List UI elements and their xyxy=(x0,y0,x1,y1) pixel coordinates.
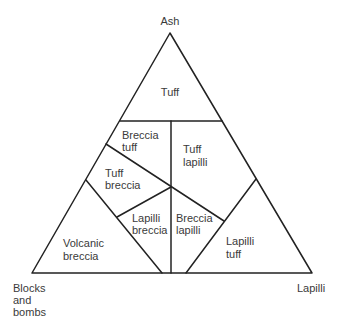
field-label-volcanic-breccia: Volcanic breccia xyxy=(63,237,107,262)
field-label-breccia-lapilli: Breccia lapilli xyxy=(176,212,216,236)
field-label-tuff-breccia: Tuff breccia xyxy=(105,167,141,191)
field-label-lapilli-breccia: Lapilli breccia xyxy=(132,212,168,236)
field-label-tuff-lapilli: Tuff lapilli xyxy=(183,143,207,168)
field-label-tuff: Tuff xyxy=(161,86,180,98)
vertex-label-ash: Ash xyxy=(161,15,180,27)
ternary-diagram: Ash Blocks and bombs Lapilli Tuff Brecci… xyxy=(0,0,343,324)
field-label-breccia-tuff: Breccia tuff xyxy=(122,129,162,153)
field-label-lapilli-tuff: Lapilli tuff xyxy=(226,235,257,260)
vertex-label-lapilli: Lapilli xyxy=(297,282,325,294)
vertex-label-blocks-bombs: Blocks and bombs xyxy=(13,282,48,318)
